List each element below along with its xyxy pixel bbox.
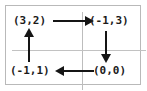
gridline-horizontal <box>12 50 146 51</box>
arrow-right-shaft <box>53 20 86 22</box>
node-label-top-left: (3,2) <box>13 15 46 27</box>
arrow-down-head-icon <box>101 54 111 63</box>
node-label-bottom-right: (0,0) <box>93 65 126 77</box>
node-label-bottom-left: (-1,1) <box>10 65 50 77</box>
node-label-top-right: (-1,3) <box>89 15 129 27</box>
arrow-down-shaft <box>105 31 107 55</box>
arrow-left-head-icon <box>55 66 64 76</box>
arrow-up-shaft <box>28 36 30 62</box>
arrow-left-shaft <box>63 70 94 72</box>
arrow-up-head-icon <box>24 28 34 37</box>
gridline-vertical <box>82 12 83 90</box>
diagram-canvas: (3,2) (-1,3) (-1,1) (0,0) <box>0 0 147 91</box>
